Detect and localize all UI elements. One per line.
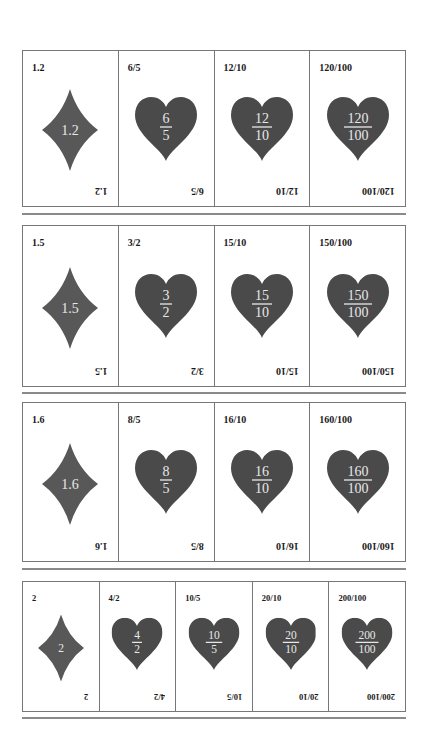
fraction-numerator: 15 xyxy=(255,288,269,303)
heart-card[interactable]: 200/100200/100200100 xyxy=(329,582,405,711)
fraction-denominator: 2 xyxy=(163,305,170,320)
heart-card[interactable]: 16/1016/101610 xyxy=(215,403,311,561)
fraction-numerator: 20 xyxy=(285,629,297,641)
heart-card[interactable]: 12/1012/101210 xyxy=(215,51,311,206)
heart-icon: 160100 xyxy=(327,450,389,514)
corner-label-top: 15/10 xyxy=(224,237,247,248)
corner-label-top: 3/2 xyxy=(128,237,141,248)
corner-label-bottom: 120/100 xyxy=(362,186,395,197)
corner-label-top: 2 xyxy=(32,593,36,603)
corner-label-bottom: 1.6 xyxy=(95,541,108,552)
diamond-value: 1.6 xyxy=(62,477,80,492)
heart-icon: 1610 xyxy=(231,450,293,514)
corner-label-top: 12/10 xyxy=(224,62,247,73)
corner-label-bottom: 20/10 xyxy=(299,692,318,702)
heart-icon: 32 xyxy=(135,274,197,338)
heart-icon: 200100 xyxy=(342,618,393,670)
card-row: 1.21.21.26/56/56512/1012/101210120/10012… xyxy=(22,50,406,207)
fraction-numerator: 150 xyxy=(347,288,368,303)
diamond-card[interactable]: 1.61.61.6 xyxy=(23,403,119,561)
fraction-numerator: 3 xyxy=(163,288,170,303)
corner-label-top: 1.6 xyxy=(32,414,45,425)
diamond-card[interactable]: 222 xyxy=(23,582,100,711)
row-divider xyxy=(22,213,406,215)
corner-label-bottom: 1.5 xyxy=(95,366,108,377)
fraction-denominator: 100 xyxy=(347,305,368,320)
fraction-numerator: 8 xyxy=(163,464,170,479)
heart-card[interactable]: 10/510/5105 xyxy=(176,582,253,711)
fraction-denominator: 10 xyxy=(255,305,269,320)
corner-label-bottom: 10/5 xyxy=(227,692,242,702)
corner-label-top: 4/2 xyxy=(109,593,120,603)
fraction-denominator: 100 xyxy=(347,128,368,143)
heart-card[interactable]: 160/100160/100160100 xyxy=(310,403,405,561)
fraction-denominator: 5 xyxy=(163,128,170,143)
corner-label-bottom: 150/100 xyxy=(362,366,395,377)
fraction-numerator: 16 xyxy=(255,464,269,479)
heart-card[interactable]: 3/23/232 xyxy=(119,226,215,386)
fraction-denominator: 5 xyxy=(163,481,170,496)
corner-label-bottom: 8/5 xyxy=(191,541,204,552)
card-row: 1.51.51.53/23/23215/1015/101510150/10015… xyxy=(22,225,406,387)
row-divider xyxy=(22,392,406,394)
diamond-icon: 1.5 xyxy=(42,267,98,349)
fraction-numerator: 4 xyxy=(135,629,141,641)
corner-label-top: 16/10 xyxy=(224,414,247,425)
heart-card[interactable]: 20/1020/102010 xyxy=(253,582,330,711)
row-divider xyxy=(22,568,406,570)
diamond-card[interactable]: 1.51.51.5 xyxy=(23,226,119,386)
fraction-numerator: 160 xyxy=(347,464,368,479)
card-row: 2224/24/24210/510/510520/1020/102010200/… xyxy=(22,581,406,712)
corner-label-bottom: 3/2 xyxy=(191,366,204,377)
fraction-denominator: 10 xyxy=(285,643,297,655)
corner-label-bottom: 16/10 xyxy=(276,541,299,552)
diamond-value: 1.5 xyxy=(62,301,80,316)
heart-icon: 120100 xyxy=(327,97,389,161)
heart-icon: 65 xyxy=(135,97,197,161)
fraction-denominator: 10 xyxy=(255,128,269,143)
corner-label-bottom: 1.2 xyxy=(95,186,108,197)
corner-label-top: 1.2 xyxy=(32,62,45,73)
heart-card[interactable]: 8/58/585 xyxy=(119,403,215,561)
corner-label-top: 160/100 xyxy=(319,414,352,425)
heart-icon: 85 xyxy=(135,450,197,514)
diamond-icon: 1.6 xyxy=(42,443,98,525)
heart-card[interactable]: 15/1015/101510 xyxy=(215,226,311,386)
corner-label-top: 200/100 xyxy=(338,593,366,603)
fraction-numerator: 6 xyxy=(163,111,170,126)
corner-label-top: 10/5 xyxy=(185,593,200,603)
corner-label-bottom: 4/2 xyxy=(154,692,165,702)
corner-label-bottom: 160/100 xyxy=(362,541,395,552)
heart-card[interactable]: 6/56/565 xyxy=(119,51,215,206)
card-row: 1.61.61.68/58/58516/1016/101610160/10016… xyxy=(22,402,406,562)
corner-label-top: 150/100 xyxy=(319,237,352,248)
fraction-denominator: 2 xyxy=(135,643,141,655)
corner-label-bottom: 2 xyxy=(84,692,88,702)
heart-icon: 42 xyxy=(112,618,163,670)
fraction-denominator: 10 xyxy=(255,481,269,496)
fraction-numerator: 12 xyxy=(255,111,269,126)
diamond-card[interactable]: 1.21.21.2 xyxy=(23,51,119,206)
diamond-value: 1.2 xyxy=(62,123,80,138)
diamond-icon: 2 xyxy=(38,614,84,681)
row-divider xyxy=(22,717,406,719)
fraction-numerator: 200 xyxy=(359,629,376,641)
fraction-denominator: 100 xyxy=(359,643,376,655)
corner-label-bottom: 200/100 xyxy=(367,692,395,702)
diamond-value: 2 xyxy=(58,642,64,654)
corner-label-top: 1.5 xyxy=(32,237,45,248)
heart-icon: 150100 xyxy=(327,274,389,338)
diamond-icon: 1.2 xyxy=(42,89,98,171)
corner-label-top: 120/100 xyxy=(319,62,352,73)
heart-card[interactable]: 4/24/242 xyxy=(100,582,177,711)
heart-icon: 1210 xyxy=(231,97,293,161)
heart-card[interactable]: 150/100150/100150100 xyxy=(310,226,405,386)
corner-label-top: 8/5 xyxy=(128,414,141,425)
heart-card[interactable]: 120/100120/100120100 xyxy=(310,51,405,206)
heart-icon: 1510 xyxy=(231,274,293,338)
corner-label-top: 6/5 xyxy=(128,62,141,73)
fraction-denominator: 100 xyxy=(347,481,368,496)
corner-label-bottom: 15/10 xyxy=(276,366,299,377)
corner-label-top: 20/10 xyxy=(262,593,281,603)
heart-icon: 105 xyxy=(189,618,240,670)
